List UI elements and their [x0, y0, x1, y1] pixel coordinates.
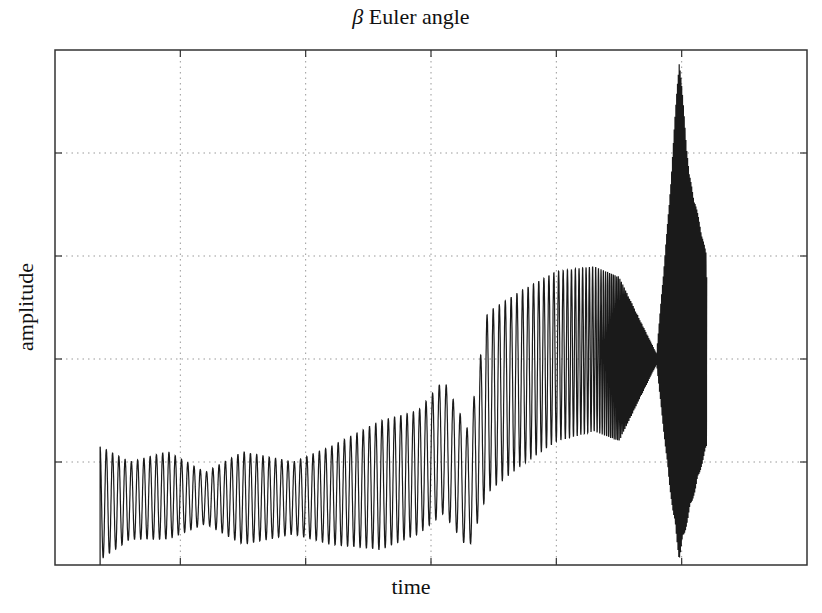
x-axis-label: time — [0, 574, 822, 600]
plot-area — [0, 0, 822, 613]
signal-line — [100, 64, 707, 565]
y-axis-label: amplitude — [13, 263, 39, 351]
